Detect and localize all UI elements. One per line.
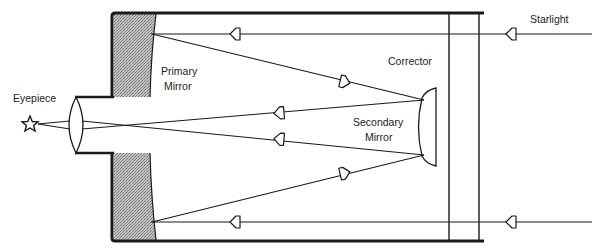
- arrow-right-icon: [339, 166, 351, 180]
- label-primary-mirror-2: Mirror: [164, 80, 192, 92]
- primary-mirror-top: [114, 14, 156, 97]
- label-eyepiece: Eyepiece: [13, 92, 56, 104]
- arrow-left-icon: [506, 216, 516, 228]
- arrow-right-icon: [339, 75, 351, 89]
- arrow-left-icon: [230, 28, 240, 40]
- arrow-left-icon: [273, 107, 284, 120]
- direction-arrows: [230, 28, 516, 228]
- star-icon: [22, 116, 38, 131]
- label-starlight: Starlight: [530, 13, 569, 25]
- arrow-left-icon: [506, 28, 516, 40]
- eyepiece-lens: [69, 97, 83, 153]
- primary-mirror-bottom: [114, 153, 156, 240]
- corrector-plate: [449, 13, 479, 241]
- arrow-left-icon: [230, 216, 240, 228]
- label-secondary-mirror-1: Secondary: [353, 116, 404, 128]
- arrow-left-icon: [273, 133, 284, 146]
- label-secondary-mirror-2: Mirror: [365, 131, 393, 143]
- label-corrector: Corrector: [388, 55, 432, 67]
- telescope-diagram: Eyepiece Primary Mirror Corrector Second…: [0, 0, 604, 251]
- label-primary-mirror-1: Primary: [161, 65, 198, 77]
